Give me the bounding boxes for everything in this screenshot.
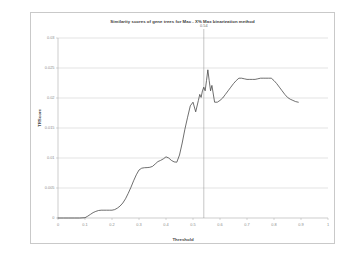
data-line-trscore bbox=[58, 70, 298, 218]
x-axis-title: Threshold bbox=[172, 237, 194, 242]
data-series-group bbox=[58, 70, 298, 218]
x-tick-label: 0.3 bbox=[136, 222, 141, 227]
y-tick-label: 0.015 bbox=[45, 125, 55, 130]
y-tick-label: 0.025 bbox=[45, 65, 55, 70]
x-tick-label: 1 bbox=[327, 222, 329, 227]
threshold-marker-group: 0.54 bbox=[200, 23, 208, 218]
x-tick-label: 0.8 bbox=[271, 222, 276, 227]
x-tick-label: 0.1 bbox=[82, 222, 87, 227]
y-tick-label: 0.03 bbox=[47, 35, 55, 40]
y-tick-label: 0 bbox=[52, 215, 55, 220]
x-tick-label: 0.9 bbox=[298, 222, 303, 227]
chart-container: Similarity scores of gene trees for Mac … bbox=[30, 12, 335, 244]
x-tick-label: 0.2 bbox=[109, 222, 114, 227]
threshold-marker-label: 0.54 bbox=[200, 23, 208, 28]
x-tick-label: 0.5 bbox=[190, 222, 195, 227]
x-tick-label: 0 bbox=[57, 222, 60, 227]
x-tick-label: 0.7 bbox=[244, 222, 249, 227]
x-tick-label: 0.6 bbox=[217, 222, 222, 227]
x-axis-ticks-group: 00.10.20.30.40.50.60.70.80.91 bbox=[57, 218, 329, 227]
x-tick-label: 0.4 bbox=[163, 222, 169, 227]
y-axis-title: TRScore bbox=[37, 108, 42, 127]
y-tick-label: 0.02 bbox=[47, 95, 55, 100]
y-axis-ticks-group: 00.0050.010.0150.020.0250.03 bbox=[45, 35, 58, 220]
y-tick-label: 0.01 bbox=[47, 155, 55, 160]
chart-plot-area: 00.10.20.30.40.50.60.70.80.91 00.0050.01… bbox=[31, 13, 336, 245]
gridlines-group bbox=[58, 38, 328, 188]
y-tick-label: 0.005 bbox=[45, 185, 55, 190]
